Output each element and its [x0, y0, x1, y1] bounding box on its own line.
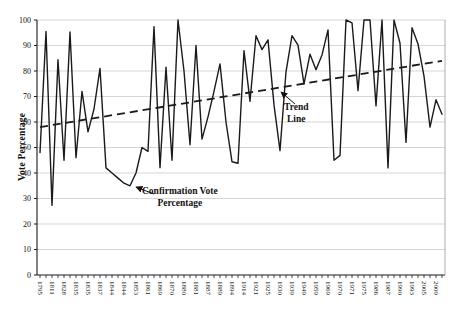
x-tick-label-1914: 1914 [240, 281, 248, 296]
x-tick-label-1828: 1828 [60, 281, 68, 296]
confirmation-vote-line [40, 20, 442, 205]
x-tick-label-1844: 1844 [120, 281, 128, 296]
y-tick-label-0: 0 [27, 271, 31, 280]
confirmation-vote-chart: 0102030405060708090100179518111828183518… [0, 0, 457, 318]
x-tick-label-1869: 1869 [156, 281, 164, 296]
x-tick-label-2005: 2005 [420, 281, 428, 296]
x-tick-label-1986: 1986 [372, 281, 380, 296]
x-tick-label-1959: 1959 [312, 281, 320, 296]
x-tick-label-1837: 1837 [96, 281, 104, 296]
x-tick-label-1949: 1949 [300, 281, 308, 296]
x-tick-label-1861: 1861 [144, 281, 152, 296]
x-tick-label-1880: 1880 [180, 281, 188, 296]
y-axis-title: Vote Percentage [17, 97, 27, 197]
y-tick-label-100: 100 [19, 16, 31, 25]
x-tick-label-1835: 1835 [84, 281, 92, 296]
trend-annotation-line1: Trend [284, 102, 308, 112]
x-tick-label-1971: 1971 [348, 281, 356, 296]
x-tick-label-1887: 1887 [204, 281, 212, 296]
y-tick-label-10: 10 [23, 245, 31, 254]
x-tick-label-1811: 1811 [48, 281, 56, 295]
x-tick-label-1993: 1993 [408, 281, 416, 296]
y-tick-label-90: 90 [23, 41, 31, 50]
trend-annotation: Trend Line [284, 102, 308, 125]
x-tick-label-1970: 1970 [336, 281, 344, 296]
x-tick-label-1881: 1881 [192, 281, 200, 296]
x-tick-label-1930: 1930 [276, 281, 284, 296]
x-tick-label-1870: 1870 [168, 281, 176, 296]
y-tick-label-20: 20 [23, 220, 31, 229]
y-tick-label-80: 80 [23, 67, 31, 76]
plot-area: 0102030405060708090100179518111828183518… [0, 0, 457, 318]
series-annotation-line2: Percentage [158, 198, 203, 208]
x-tick-label-1795: 1795 [36, 281, 44, 296]
x-tick-label-1853: 1853 [132, 281, 140, 296]
x-tick-label-1844: 1844 [108, 281, 116, 296]
x-tick-label-1975: 1975 [360, 281, 368, 296]
x-tick-label-1987: 1987 [384, 281, 392, 296]
x-tick-label-1939: 1939 [288, 281, 296, 296]
trend-annotation-line2: Line [287, 114, 305, 124]
x-tick-label-2009: 2009 [432, 281, 440, 296]
series-annotation-line1: Confirmation Vote [142, 186, 218, 196]
x-tick-label-1921: 1921 [252, 281, 260, 296]
x-tick-label-1925: 1925 [264, 281, 272, 296]
x-tick-label-1894: 1894 [228, 281, 236, 296]
x-tick-label-1889: 1889 [216, 281, 224, 296]
x-tick-label-1835: 1835 [72, 281, 80, 296]
x-tick-label-1990: 1990 [396, 281, 404, 296]
x-tick-label-1969: 1969 [324, 281, 332, 296]
series-annotation: Confirmation Vote Percentage [142, 186, 218, 209]
